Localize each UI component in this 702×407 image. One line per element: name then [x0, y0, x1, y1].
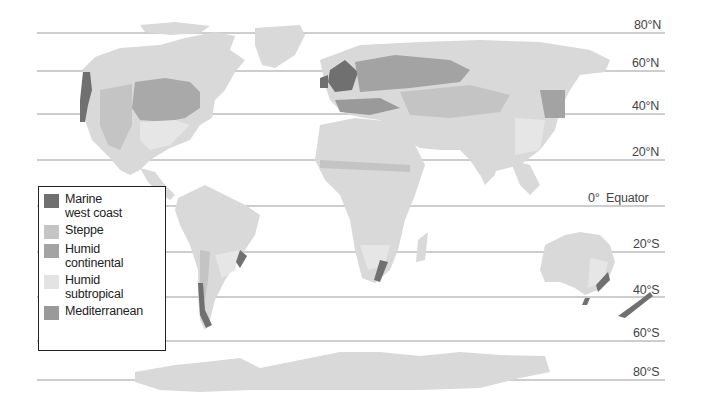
lat-label-20s: 20°S: [633, 237, 659, 251]
map-legend: Marine west coast Steppe Humid continent…: [38, 186, 166, 351]
legend-label-line1: Humid: [65, 273, 123, 287]
legend-label-marine-west-coast: Marine west coast: [65, 192, 122, 220]
legend-label-line2: continental: [65, 256, 123, 270]
lat-label-60s: 60°S: [633, 326, 659, 340]
mediterranean-swatch: [44, 306, 59, 320]
legend-label-line2: west coast: [65, 206, 122, 220]
steppe-swatch: [44, 225, 59, 239]
south-america: [175, 185, 260, 330]
north-america: [80, 22, 245, 200]
lat-label-60n: 60°N: [632, 56, 659, 70]
lat-label-20n: 20°N: [632, 145, 659, 159]
legend-label-line2: subtropical: [65, 287, 123, 301]
lat-label-40s: 40°S: [633, 283, 659, 297]
legend-label-line1: Marine: [65, 192, 122, 206]
antarctica: [135, 352, 550, 392]
legend-item-mediterranean: Mediterranean: [44, 304, 161, 320]
australia: [540, 232, 615, 305]
legend-label-humid-continental: Humid continental: [65, 242, 123, 270]
africa: [315, 118, 428, 283]
legend-item-steppe: Steppe: [44, 223, 161, 239]
legend-label-line1: Humid: [65, 242, 123, 256]
legend-label-steppe: Steppe: [65, 223, 103, 237]
legend-item-humid-subtropical: Humid subtropical: [44, 273, 161, 301]
lat-label-80n: 80°N: [634, 18, 661, 32]
lat-label-equator: 0° Equator: [588, 191, 648, 205]
lat-label-40n: 40°N: [632, 99, 659, 113]
legend-item-humid-continental: Humid continental: [44, 242, 161, 270]
humid-subtropical-swatch: [44, 275, 59, 289]
legend-label-mediterranean: Mediterranean: [65, 304, 143, 318]
marine-west-coast-swatch: [44, 194, 59, 208]
southeast-asia: [510, 160, 540, 195]
greenland: [255, 25, 305, 68]
humid-continental-swatch: [44, 244, 59, 258]
lat-label-80s: 80°S: [633, 365, 659, 379]
legend-item-marine-west-coast: Marine west coast: [44, 192, 161, 220]
legend-label-humid-subtropical: Humid subtropical: [65, 273, 123, 301]
